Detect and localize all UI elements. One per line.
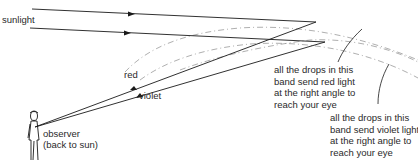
red-band-outer-arc [125, 27, 418, 72]
observer-figure [28, 111, 39, 160]
arrowheads [124, 12, 143, 99]
observer-legs [31, 140, 38, 160]
rainbow-diagram: sunlight red violet observer (back to su… [0, 0, 418, 161]
arrow-icon [124, 31, 131, 36]
observer-head [31, 112, 38, 121]
observer-label: observer [43, 128, 80, 139]
sunlight-ray-top [32, 9, 316, 22]
violet-band-leader [378, 64, 389, 104]
violet-label: violet [139, 90, 161, 101]
sunlight-label: sunlight [2, 14, 35, 25]
arrow-icon [128, 12, 135, 17]
observer-torso [29, 121, 39, 140]
red-band-leader [338, 29, 362, 62]
violet-band-annotation: all the drops in this band send violet l… [330, 112, 418, 158]
red-label: red [124, 69, 138, 80]
back-to-sun-label: (back to sun) [43, 139, 98, 150]
rainbow-arcs [125, 27, 418, 80]
arrow-icon [130, 86, 137, 90]
red-band-annotation: all the drops in this band send red ligh… [274, 64, 355, 110]
